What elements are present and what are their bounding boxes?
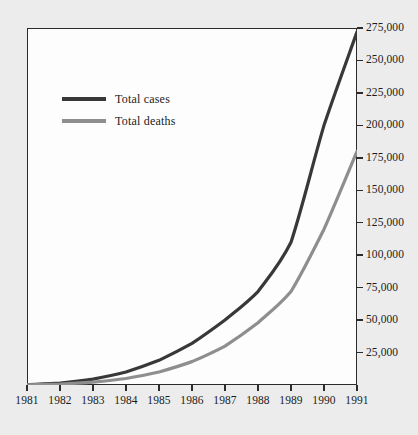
series-line-total-cases — [27, 32, 357, 385]
y-axis-tick-label: 225,000 — [366, 87, 404, 99]
x-axis-tick-mark — [323, 385, 324, 391]
legend-swatch-total-deaths — [62, 119, 106, 122]
y-axis-tick-mark — [357, 92, 363, 93]
y-axis-tick-label: 50,000 — [366, 314, 398, 326]
chart-figure: 25,00050,00075,000100,000125,000150,0001… — [0, 0, 418, 435]
x-axis-tick-mark — [158, 385, 159, 391]
y-axis-tick-label: 275,000 — [366, 22, 404, 34]
y-axis-tick-label: 25,000 — [366, 347, 398, 359]
y-axis-tick-mark — [357, 287, 363, 288]
y-axis-tick-label: 75,000 — [366, 282, 398, 294]
y-axis-tick-mark — [357, 222, 363, 223]
y-axis-tick-mark — [357, 352, 363, 353]
chart-legend: Total casesTotal deaths — [62, 88, 176, 132]
x-axis-tick-mark — [290, 385, 291, 391]
y-axis-tick-label: 125,000 — [366, 217, 404, 229]
x-axis-tick-mark — [92, 385, 93, 391]
y-axis-tick-label: 175,000 — [366, 152, 404, 164]
x-axis-tick-mark — [356, 385, 357, 391]
legend-item: Total cases — [62, 88, 176, 110]
legend-label: Total cases — [115, 92, 170, 107]
chart-curves — [27, 28, 357, 385]
y-axis-tick-mark — [357, 125, 363, 126]
y-axis-tick-label: 100,000 — [366, 249, 404, 261]
y-axis-tick-mark — [357, 319, 363, 320]
x-axis-tick-mark — [191, 385, 192, 391]
y-axis-tick-mark — [357, 60, 363, 61]
legend-swatch-total-cases — [62, 97, 106, 100]
x-axis-tick-mark — [257, 385, 258, 391]
x-axis-tick-mark — [59, 385, 60, 391]
y-axis-tick-mark — [357, 190, 363, 191]
y-axis-tick-label: 150,000 — [366, 184, 404, 196]
x-axis-tick-mark — [26, 385, 27, 391]
x-axis-tick-mark — [125, 385, 126, 391]
y-axis-tick-label: 250,000 — [366, 54, 404, 66]
y-axis-tick-mark — [357, 254, 363, 255]
x-axis-tick-label: 1991 — [337, 395, 377, 407]
x-axis-tick-mark — [224, 385, 225, 391]
y-axis-tick-label: 200,000 — [366, 119, 404, 131]
legend-label: Total deaths — [115, 114, 176, 129]
y-axis-tick-mark — [357, 157, 363, 158]
legend-item: Total deaths — [62, 110, 176, 132]
y-axis-tick-mark — [357, 27, 363, 28]
